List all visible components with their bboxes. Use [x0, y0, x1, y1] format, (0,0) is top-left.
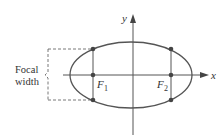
ellipse-diagram: y x F 1 F 2 Focal width	[0, 0, 220, 139]
point-left-top	[91, 47, 96, 52]
focus-1-subscript: 1	[104, 84, 108, 93]
point-right-top	[169, 47, 174, 52]
diagram-canvas: y x F 1 F 2 Focal width	[0, 0, 220, 139]
focus-2-point	[169, 73, 174, 78]
x-axis-arrow-icon	[200, 72, 209, 78]
focus-1-label: F	[96, 78, 104, 90]
focus-1-point	[91, 73, 96, 78]
brace-icon	[45, 49, 48, 100]
y-axis-label: y	[121, 12, 127, 24]
x-axis-label: x	[210, 69, 216, 81]
point-left-bottom	[91, 98, 96, 103]
focus-2-label: F	[156, 78, 164, 90]
point-right-bottom	[169, 98, 174, 103]
focal-width-label-line2: width	[15, 76, 40, 87]
y-axis-arrow-icon	[130, 14, 136, 23]
focal-width-label-line1: Focal	[15, 64, 38, 75]
focus-2-subscript: 2	[164, 84, 168, 93]
